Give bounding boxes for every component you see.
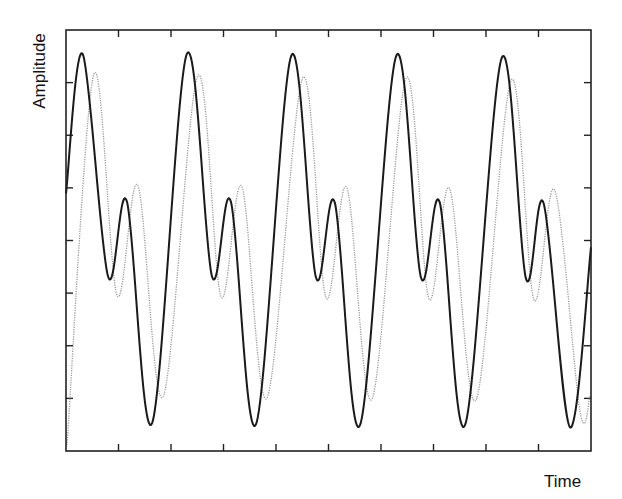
x-axis-label: Time xyxy=(544,472,581,492)
y-axis-label-text: Amplitude xyxy=(30,33,50,109)
line-chart xyxy=(0,0,622,499)
y-axis-label: Amplitude xyxy=(31,28,49,114)
series-dotted-line xyxy=(67,72,590,445)
